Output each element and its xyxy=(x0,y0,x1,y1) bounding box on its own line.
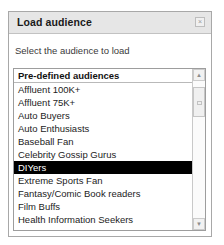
scroll-up-icon[interactable]: ▲ xyxy=(193,69,205,81)
list-item[interactable]: DIYers xyxy=(14,161,192,174)
scrollbar-track[interactable] xyxy=(193,81,205,218)
dialog-titlebar: Load audience × xyxy=(9,12,211,34)
list-rows-container: Affluent 100K+Affluent 75K+Auto BuyersAu… xyxy=(14,83,192,230)
list-item[interactable]: Baseball Fan xyxy=(14,135,192,148)
list-item[interactable]: Fantasy/Comic Book readers xyxy=(14,187,192,200)
listbox-scrollbar[interactable]: ▲ ▼ xyxy=(192,69,205,230)
list-item[interactable]: Affluent 75K+ xyxy=(14,96,192,109)
close-icon[interactable]: × xyxy=(195,17,205,27)
audience-listbox[interactable]: Pre-defined audiences Affluent 100K+Affl… xyxy=(13,68,206,231)
list-item[interactable]: Film Buffs xyxy=(14,200,192,213)
list-item[interactable]: Celebrity Gossip Gurus xyxy=(14,148,192,161)
dialog-title: Load audience xyxy=(17,16,92,28)
list-group-header: Pre-defined audiences xyxy=(14,69,192,83)
scrollbar-thumb[interactable] xyxy=(193,87,205,117)
scroll-down-icon[interactable]: ▼ xyxy=(193,218,205,230)
load-audience-dialog: Load audience × Select the audience to l… xyxy=(8,11,212,237)
listbox-scrollarea: Pre-defined audiences Affluent 100K+Affl… xyxy=(14,69,192,230)
screen: Load audience × Select the audience to l… xyxy=(0,0,224,245)
list-item[interactable]: Health Information Seekers xyxy=(14,213,192,226)
instruction-text: Select the audience to load xyxy=(15,45,130,56)
list-item[interactable]: Affluent 100K+ xyxy=(14,83,192,96)
list-item[interactable]: Home Buyers xyxy=(14,226,192,230)
list-item[interactable]: Auto Buyers xyxy=(14,109,192,122)
list-item[interactable]: Extreme Sports Fan xyxy=(14,174,192,187)
list-item[interactable]: Auto Enthusiasts xyxy=(14,122,192,135)
dialog-body: Select the audience to load Pre-defined … xyxy=(9,34,211,236)
